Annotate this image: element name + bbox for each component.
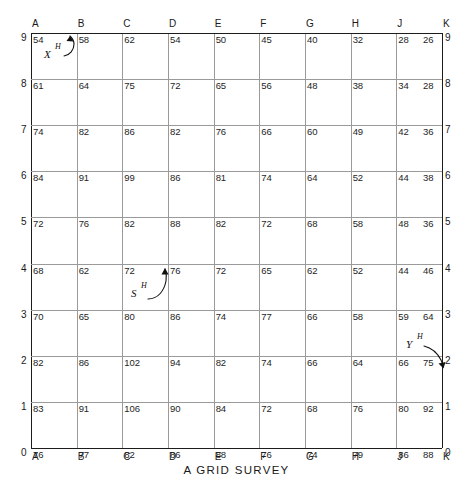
grid-line-row-5 — [31, 217, 442, 218]
grid-line-column-H — [351, 33, 352, 448]
grid-value-J8: 34 — [398, 80, 408, 91]
grid-value-D8: 72 — [170, 80, 180, 91]
axis-label-left-9: 9 — [21, 32, 27, 43]
grid-value-F6: 74 — [261, 172, 271, 183]
axis-label-right-7: 7 — [445, 124, 451, 135]
axis-label-top-J: J — [397, 18, 402, 29]
grid-value-A4: 68 — [33, 265, 43, 276]
grid-line-column-A — [31, 33, 32, 448]
grid-value-G4: 62 — [307, 265, 317, 276]
grid-value-K0: 88 — [423, 449, 433, 460]
grid-value-B1: 91 — [79, 403, 89, 414]
grid-value-B5: 76 — [79, 218, 89, 229]
grid-line-row-8 — [31, 79, 442, 80]
grid-value-E2: 82 — [216, 357, 226, 368]
grid-value-H2: 64 — [353, 357, 363, 368]
grid-value-D6: 86 — [170, 172, 180, 183]
axis-label-left-4: 4 — [21, 263, 27, 274]
grid-value-J6: 44 — [398, 172, 408, 183]
axis-label-bottom-E: E — [215, 451, 222, 462]
axis-label-bottom-B: B — [78, 451, 85, 462]
axis-label-left-1: 1 — [21, 401, 27, 412]
grid-line-row-7 — [31, 125, 442, 126]
grid-value-H4: 52 — [353, 265, 363, 276]
grid-value-J9: 28 — [398, 34, 408, 45]
grid-line-row-6 — [31, 171, 442, 172]
axis-label-bottom-G: G — [306, 451, 314, 462]
grid-value-E5: 82 — [216, 218, 226, 229]
grid-line-row-0 — [31, 448, 442, 449]
grid-value-K7: 36 — [423, 126, 433, 137]
grid-value-D2: 94 — [170, 357, 180, 368]
axis-label-right-3: 3 — [445, 309, 451, 320]
grid-value-B6: 91 — [79, 172, 89, 183]
axis-label-top-K: K — [443, 18, 450, 29]
grid-value-F8: 56 — [261, 80, 271, 91]
grid-value-K6: 38 — [423, 172, 433, 183]
grid-value-C9: 62 — [124, 34, 134, 45]
axis-label-left-8: 8 — [21, 78, 27, 89]
axis-label-right-1: 1 — [445, 401, 451, 412]
grid-value-F7: 66 — [261, 126, 271, 137]
axis-label-right-6: 6 — [445, 170, 451, 181]
grid-value-G9: 40 — [307, 34, 317, 45]
grid-value-F1: 72 — [261, 403, 271, 414]
grid-value-C6: 99 — [124, 172, 134, 183]
grid-value-J1: 80 — [398, 403, 408, 414]
grid-line-row-3 — [31, 310, 442, 311]
grid-value-K8: 28 — [423, 80, 433, 91]
grid-line-column-G — [305, 33, 306, 448]
grid-value-G6: 64 — [307, 172, 317, 183]
grid-value-B9: 58 — [79, 34, 89, 45]
grid-line-column-C — [122, 33, 123, 448]
grid-value-F4: 65 — [261, 265, 271, 276]
grid-value-E6: 81 — [216, 172, 226, 183]
grid-line-row-2 — [31, 356, 442, 357]
grid-value-K5: 36 — [423, 218, 433, 229]
axis-label-left-0: 0 — [21, 447, 27, 458]
axis-label-top-C: C — [123, 18, 130, 29]
grid-value-J2: 66 — [398, 357, 408, 368]
axis-label-bottom-C: C — [123, 451, 130, 462]
grid-value-H7: 49 — [353, 126, 363, 137]
grid-value-D3: 86 — [170, 311, 180, 322]
grid-survey-figure: 5458625450454032282661647572655648383428… — [0, 0, 473, 498]
axis-label-left-2: 2 — [21, 355, 27, 366]
grid-value-H3: 58 — [353, 311, 363, 322]
grid-value-C2: 102 — [124, 357, 140, 368]
grid-value-G8: 48 — [307, 80, 317, 91]
grid-value-H6: 52 — [353, 172, 363, 183]
grid-value-A5: 72 — [33, 218, 43, 229]
grid-value-B3: 65 — [79, 311, 89, 322]
grid-value-A2: 82 — [33, 357, 43, 368]
grid-value-G5: 68 — [307, 218, 317, 229]
grid-value-F3: 77 — [261, 311, 271, 322]
grid-value-B2: 86 — [79, 357, 89, 368]
grid-value-E7: 76 — [216, 126, 226, 137]
grid-value-K9: 26 — [423, 34, 433, 45]
axis-label-left-5: 5 — [21, 216, 27, 227]
axis-label-right-5: 5 — [445, 216, 451, 227]
grid-value-D9: 54 — [170, 34, 180, 45]
grid-value-B7: 82 — [79, 126, 89, 137]
grid-value-H8: 38 — [353, 80, 363, 91]
figure-caption: A GRID SURVEY — [0, 464, 473, 476]
grid-value-H1: 76 — [353, 403, 363, 414]
grid-value-D4: 76 — [170, 265, 180, 276]
grid-value-K3: 64 — [423, 311, 433, 322]
axis-label-top-G: G — [306, 18, 314, 29]
grid-line-column-B — [77, 33, 78, 448]
grid-value-A7: 74 — [33, 126, 43, 137]
grid-line-row-9 — [31, 33, 442, 34]
grid-value-G7: 60 — [307, 126, 317, 137]
axis-label-bottom-A: A — [32, 451, 39, 462]
axis-label-top-D: D — [169, 18, 176, 29]
grid-value-K2: 75 — [423, 357, 433, 368]
axis-label-bottom-J: J — [397, 451, 402, 462]
axis-label-right-9: 9 — [445, 32, 451, 43]
grid-value-K4: 46 — [423, 265, 433, 276]
axis-label-right-4: 4 — [445, 263, 451, 274]
grid-value-C4: 72 — [124, 265, 134, 276]
grid-value-G3: 66 — [307, 311, 317, 322]
grid-value-E4: 72 — [216, 265, 226, 276]
